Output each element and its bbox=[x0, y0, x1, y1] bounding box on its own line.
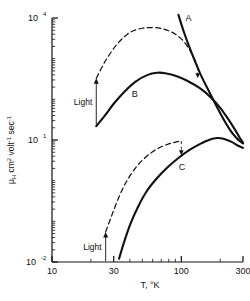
axes-frame bbox=[52, 18, 243, 262]
curve-label-c: C bbox=[179, 162, 186, 172]
y-title-cm: cm bbox=[6, 161, 16, 175]
y-tick-bottom-exponent: -2 bbox=[41, 255, 47, 261]
y-tick-bottom-mantissa: 10 bbox=[26, 257, 36, 267]
figure-container: 10 4 10 1 10 -2 1030100300 μH cm2 volt-1… bbox=[0, 0, 250, 301]
y-tick-top-mantissa: 10 bbox=[28, 13, 38, 23]
annotation-drop-lower bbox=[179, 141, 184, 155]
hall-mobility-chart: 10 4 10 1 10 -2 1030100300 μH cm2 volt-1… bbox=[0, 0, 250, 301]
y-tick-mid-mantissa: 10 bbox=[28, 135, 38, 145]
y-title-sec-exp: -1 bbox=[6, 115, 12, 121]
y-tick-label-mid: 10 1 bbox=[28, 133, 47, 145]
drop-marker-upper-head bbox=[195, 73, 200, 78]
y-title-sec: sec bbox=[6, 121, 16, 137]
x-tick-labels: 1030100300 bbox=[47, 266, 250, 276]
y-axis-title: μH cm2 volt-1 sec-1 bbox=[6, 115, 17, 184]
annotation-light-lower: Light bbox=[83, 232, 108, 261]
light-label-upper: Light bbox=[74, 97, 93, 107]
y-tick-label-bottom: 10 -2 bbox=[26, 255, 47, 267]
y-tick-mid-exponent: 1 bbox=[43, 133, 47, 139]
y-axis-ticks bbox=[52, 18, 58, 262]
x-axis-ticks bbox=[52, 256, 243, 262]
curve-label-a: A bbox=[185, 13, 191, 23]
y-title-volt: volt bbox=[6, 142, 16, 158]
light-arrow-upper-head bbox=[94, 78, 99, 84]
annotation-light-upper: Light bbox=[74, 78, 99, 126]
x-tick-label: 300 bbox=[235, 266, 250, 276]
y-tick-label-top: 10 4 bbox=[28, 11, 47, 23]
curve-label-b: B bbox=[132, 89, 138, 99]
x-tick-label: 10 bbox=[47, 266, 57, 276]
curve-a bbox=[178, 15, 243, 144]
light-arrow-lower-head bbox=[103, 232, 108, 238]
light-label-lower: Light bbox=[83, 242, 102, 252]
curve-c bbox=[119, 138, 243, 259]
x-axis-title: T, °K bbox=[140, 280, 159, 290]
x-tick-label: 100 bbox=[174, 266, 189, 276]
svg-text:μH cm2 volt-1 sec-1: μH cm2 volt-1 sec-1 bbox=[6, 115, 17, 184]
x-tick-label: 30 bbox=[109, 266, 119, 276]
curve-b-light bbox=[96, 28, 197, 79]
data-curves bbox=[96, 15, 243, 259]
y-tick-top-exponent: 4 bbox=[43, 11, 47, 17]
curve-b bbox=[96, 73, 243, 143]
curve-c-light bbox=[106, 141, 182, 232]
